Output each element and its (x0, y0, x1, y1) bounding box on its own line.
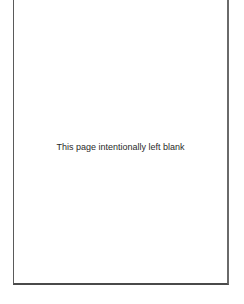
document-page: This page intentionally left blank (13, 0, 229, 285)
blank-page-notice: This page intentionally left blank (14, 141, 227, 153)
